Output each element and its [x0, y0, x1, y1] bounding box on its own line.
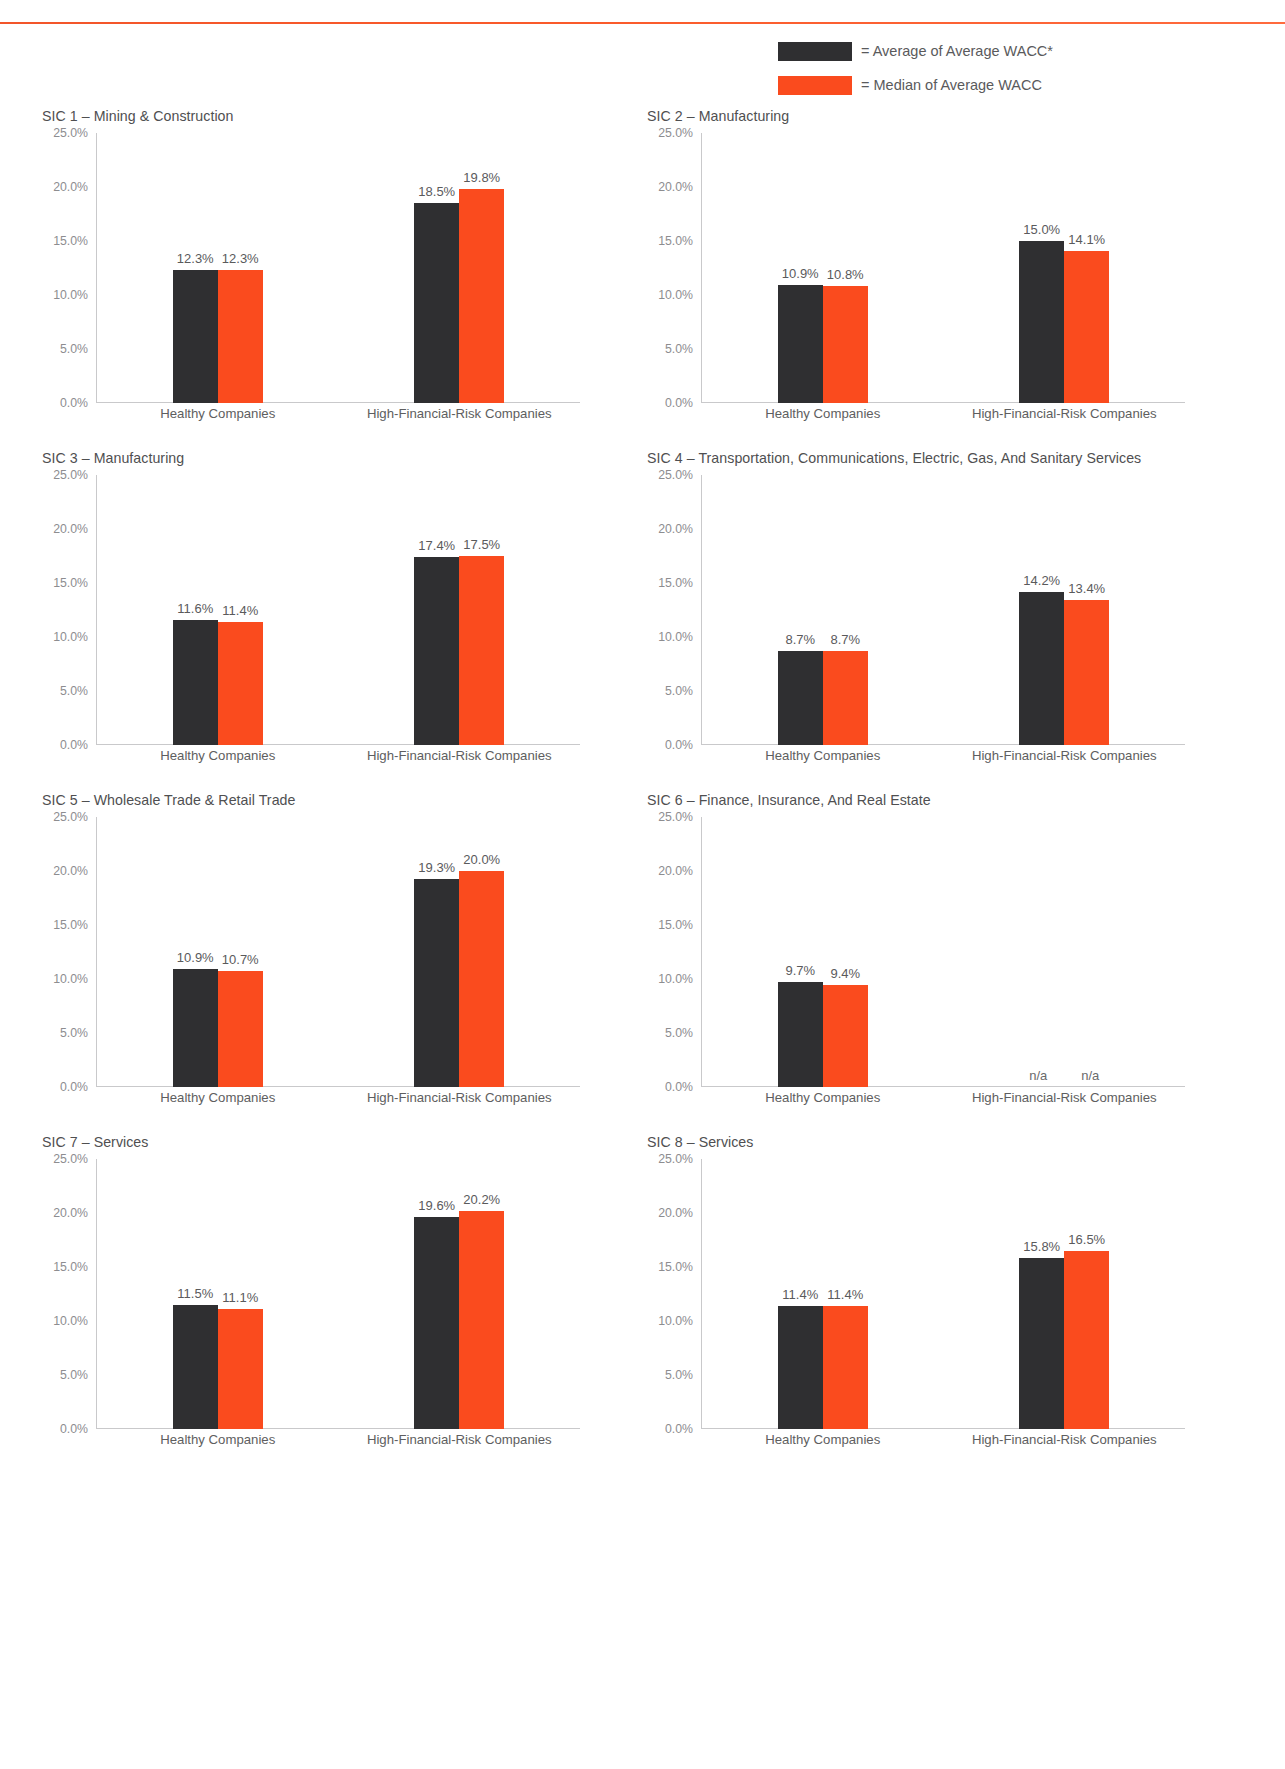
bar-value-label: 17.5%	[463, 537, 500, 552]
y-tick-label: 0.0%	[665, 1422, 693, 1436]
y-tick-label: 25.0%	[53, 126, 88, 140]
bar-pair: 18.5%19.8%	[414, 133, 504, 403]
bar-pair: 17.4%17.5%	[414, 475, 504, 745]
bar-median[interactable]: 19.8%	[459, 133, 504, 403]
y-tick-label: 0.0%	[60, 1422, 88, 1436]
bar-median[interactable]: 17.5%	[459, 475, 504, 745]
bar-average[interactable]: 12.3%	[173, 133, 218, 403]
bars-container: 12.3%12.3%18.5%19.8%	[97, 133, 580, 403]
bar-group: 10.9%10.8%	[702, 133, 944, 403]
y-tick-label: 20.0%	[658, 1206, 693, 1220]
bar-fill	[414, 879, 459, 1087]
bar-average[interactable]: 18.5%	[414, 133, 459, 403]
y-tick-label: 20.0%	[658, 180, 693, 194]
bar-fill	[459, 556, 504, 745]
legend-swatch-orange	[778, 76, 852, 95]
y-tick-label: 10.0%	[658, 972, 693, 986]
bar-median[interactable]: 14.1%	[1064, 133, 1109, 403]
bar-average[interactable]: 14.2%	[1019, 475, 1064, 745]
y-axis-tick-labels: 25.0%20.0%15.0%10.0%5.0%0.0%	[645, 1159, 701, 1437]
bar-average[interactable]: 10.9%	[173, 817, 218, 1087]
chart-title: SIC 4 – Transportation, Communications, …	[647, 450, 1185, 466]
bar-group: 18.5%19.8%	[339, 133, 581, 403]
header-accent-rule	[0, 22, 1285, 24]
bar-median[interactable]: 11.4%	[823, 1159, 868, 1429]
plot-area: 25.0%20.0%15.0%10.0%5.0%0.0%11.5%11.1%19…	[40, 1159, 580, 1437]
x-axis-tick-labels: Healthy CompaniesHigh-Financial-Risk Com…	[702, 748, 1185, 763]
bar-average[interactable]: 19.3%	[414, 817, 459, 1087]
y-tick-label: 20.0%	[658, 522, 693, 536]
bar-fill	[1019, 1258, 1064, 1429]
bar-fill	[778, 651, 823, 745]
bars-container: 10.9%10.8%15.0%14.1%	[702, 133, 1185, 403]
bar-fill	[823, 1306, 868, 1429]
bar-average[interactable]: 10.9%	[778, 133, 823, 403]
y-tick-label: 5.0%	[665, 1368, 693, 1382]
bar-group: 9.7%9.4%	[702, 817, 944, 1087]
bar-average[interactable]: 17.4%	[414, 475, 459, 745]
bar-fill	[414, 557, 459, 745]
y-tick-label: 25.0%	[658, 126, 693, 140]
bar-median[interactable]: 10.7%	[218, 817, 263, 1087]
x-axis-tick-labels: Healthy CompaniesHigh-Financial-Risk Com…	[97, 1432, 580, 1447]
bar-fill	[173, 620, 218, 745]
y-tick-label: 20.0%	[53, 864, 88, 878]
y-tick-label: 20.0%	[53, 522, 88, 536]
bar-value-label: 8.7%	[785, 632, 815, 647]
bar-median[interactable]: 12.3%	[218, 133, 263, 403]
y-tick-label: 15.0%	[53, 234, 88, 248]
bar-value-label: 11.1%	[222, 1290, 258, 1305]
bar-value-label: 12.3%	[177, 251, 214, 266]
y-axis-tick-labels: 25.0%20.0%15.0%10.0%5.0%0.0%	[40, 1159, 96, 1437]
y-tick-label: 10.0%	[53, 1314, 88, 1328]
bar-fill	[823, 985, 868, 1087]
bar-group: 10.9%10.7%	[97, 817, 339, 1087]
bar-value-label: 19.8%	[463, 170, 500, 185]
bar-average[interactable]: 11.5%	[173, 1159, 218, 1429]
bar-average[interactable]: 9.7%	[778, 817, 823, 1087]
bar-pair: 11.6%11.4%	[173, 475, 263, 745]
bar-median[interactable]: 16.5%	[1064, 1159, 1109, 1429]
legend-label: = Median of Average WACC	[861, 77, 1042, 93]
y-tick-label: 5.0%	[665, 342, 693, 356]
y-tick-label: 15.0%	[658, 1260, 693, 1274]
chart-title: SIC 6 – Finance, Insurance, And Real Est…	[647, 792, 1185, 808]
plot-area: 25.0%20.0%15.0%10.0%5.0%0.0%10.9%10.8%15…	[645, 133, 1185, 411]
bar-fill	[1064, 1251, 1109, 1429]
y-axis-tick-labels: 25.0%20.0%15.0%10.0%5.0%0.0%	[645, 133, 701, 411]
bar-group: n/an/a	[944, 817, 1186, 1087]
bar-value-label: 16.5%	[1068, 1232, 1105, 1247]
bar-average[interactable]: 19.6%	[414, 1159, 459, 1429]
y-tick-label: 25.0%	[658, 1152, 693, 1166]
bar-median[interactable]: 11.1%	[218, 1159, 263, 1429]
bar-average[interactable]: 8.7%	[778, 475, 823, 745]
y-tick-label: 25.0%	[658, 468, 693, 482]
bar-average[interactable]: 11.6%	[173, 475, 218, 745]
y-axis-tick-labels: 25.0%20.0%15.0%10.0%5.0%0.0%	[645, 817, 701, 1095]
x-tick-label: High-Financial-Risk Companies	[944, 1090, 1186, 1105]
x-tick-label: High-Financial-Risk Companies	[339, 748, 581, 763]
bar-median[interactable]: 8.7%	[823, 475, 868, 745]
bar-median[interactable]: 13.4%	[1064, 475, 1109, 745]
bar-fill	[173, 1305, 218, 1429]
bar-value-label: 13.4%	[1068, 581, 1105, 596]
bar-average[interactable]: 11.4%	[778, 1159, 823, 1429]
bar-average[interactable]: 15.8%	[1019, 1159, 1064, 1429]
x-axis-tick-labels: Healthy CompaniesHigh-Financial-Risk Com…	[97, 748, 580, 763]
x-tick-label: High-Financial-Risk Companies	[944, 748, 1186, 763]
bar-median[interactable]: 20.0%	[459, 817, 504, 1087]
bar-fill	[218, 622, 263, 745]
bar-median[interactable]: 9.4%	[823, 817, 868, 1087]
bar-value-label: 11.6%	[177, 601, 213, 616]
legend-label: = Average of Average WACC*	[861, 43, 1053, 59]
chart-panel: SIC 5 – Wholesale Trade & Retail Trade25…	[40, 792, 580, 1095]
y-tick-label: 10.0%	[658, 288, 693, 302]
bar-median[interactable]: 20.2%	[459, 1159, 504, 1429]
bar-median[interactable]: 11.4%	[218, 475, 263, 745]
bar-value-label: 11.4%	[222, 603, 258, 618]
chart-legend: = Average of Average WACC*= Median of Av…	[778, 38, 1208, 106]
y-tick-label: 20.0%	[658, 864, 693, 878]
bar-median[interactable]: 10.8%	[823, 133, 868, 403]
page-header-cropped-text	[70, 0, 1245, 12]
bar-average[interactable]: 15.0%	[1019, 133, 1064, 403]
